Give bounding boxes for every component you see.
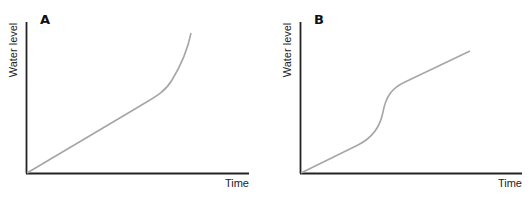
curve-a xyxy=(27,33,191,173)
x-axis-label-b: Time xyxy=(498,177,522,189)
figure: A Water level Time B Water level Time xyxy=(0,0,532,199)
curve-b xyxy=(301,51,470,173)
panel-label-b: B xyxy=(314,12,324,27)
panel-a: A Water level Time xyxy=(7,12,249,189)
panel-label-a: A xyxy=(40,12,50,27)
panel-b: B Water level Time xyxy=(281,12,522,189)
y-axis-label-a: Water level xyxy=(7,23,19,78)
x-axis-label-a: Time xyxy=(225,177,249,189)
y-axis-label-b: Water level xyxy=(281,23,293,78)
